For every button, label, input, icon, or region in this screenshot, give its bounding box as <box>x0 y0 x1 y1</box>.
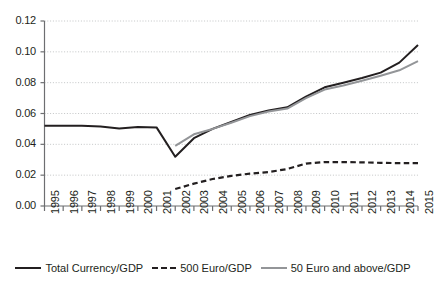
legend-label: 500 Euro/GDP <box>180 263 252 274</box>
x-tick-label: 2015 <box>423 190 435 214</box>
y-tick-label: 0.04 <box>0 137 36 149</box>
x-tick-label: 2000 <box>142 190 154 214</box>
x-tick-label: 1998 <box>105 190 117 214</box>
x-tick-label: 2014 <box>404 190 416 214</box>
legend-swatch-icon <box>261 267 287 269</box>
x-tick-label: 2008 <box>292 190 304 214</box>
series-lines <box>45 45 419 189</box>
legend-item-1[interactable]: 500 Euro/GDP <box>152 263 252 274</box>
x-tick-label: 1996 <box>68 190 80 214</box>
y-tick-label: 0.08 <box>0 76 36 88</box>
x-tick-label: 1997 <box>86 190 98 214</box>
x-tick-label: 2007 <box>273 190 285 214</box>
x-tick-label: 2003 <box>198 190 210 214</box>
x-axis-ticks <box>45 206 419 211</box>
x-tick-label: 2013 <box>385 190 397 214</box>
x-tick-label: 2011 <box>348 191 360 214</box>
legend-item-0[interactable]: Total Currency/GDP <box>15 263 143 274</box>
x-tick-label: 2005 <box>236 190 248 214</box>
legend-item-2[interactable]: 50 Euro and above/GDP <box>261 263 411 274</box>
y-tick-label: 0.00 <box>0 199 36 211</box>
x-tick-label: 1999 <box>124 190 136 214</box>
y-tick-label: 0.02 <box>0 168 36 180</box>
legend-label: Total Currency/GDP <box>45 263 143 274</box>
legend-label: 50 Euro and above/GDP <box>291 263 411 274</box>
x-tick-label: 2002 <box>180 190 192 214</box>
chart-legend: Total Currency/GDP500 Euro/GDP50 Euro an… <box>0 258 426 278</box>
y-tick-label: 0.12 <box>0 14 36 26</box>
x-tick-label: 2009 <box>310 190 322 214</box>
x-tick-label: 2010 <box>329 190 341 214</box>
series-line-2 <box>175 61 418 146</box>
legend-swatch-icon <box>15 267 41 269</box>
y-tick-label: 0.06 <box>0 107 36 119</box>
legend-swatch-icon <box>152 267 176 269</box>
x-tick-label: 1995 <box>49 190 61 214</box>
x-tick-label: 2006 <box>254 190 266 214</box>
gridlines <box>45 21 419 175</box>
y-tick-label: 0.10 <box>0 45 36 57</box>
series-line-0 <box>45 45 419 157</box>
x-tick-label: 2001 <box>161 190 173 214</box>
x-tick-label: 2012 <box>366 190 378 214</box>
x-tick-label: 2004 <box>217 190 229 214</box>
